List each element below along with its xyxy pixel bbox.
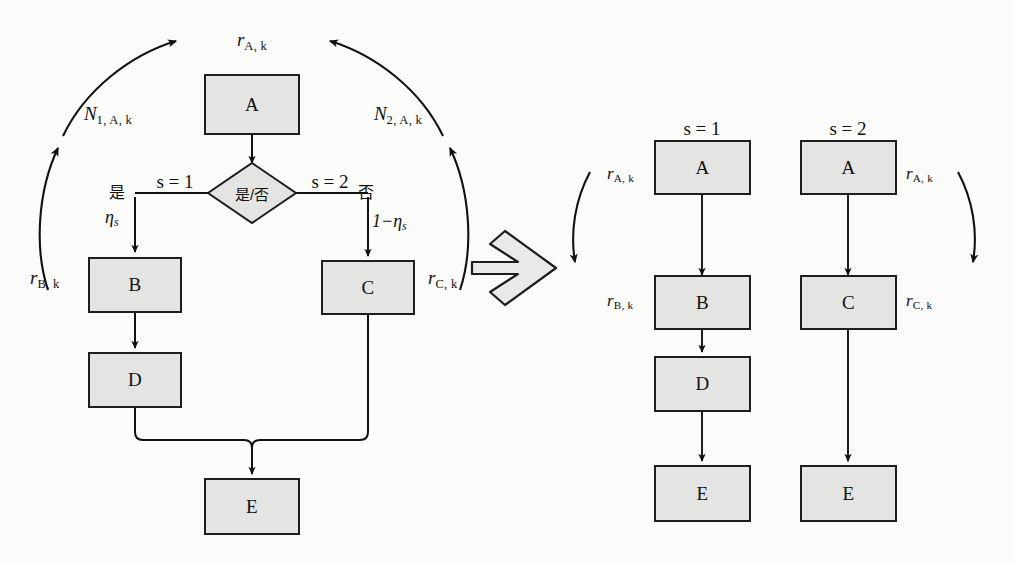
- label-r-a-k-top: rA, k: [237, 30, 267, 52]
- diagram-canvas: A 是/否 B C D E rA, k N1, A, k N2, A, k s …: [0, 0, 1013, 563]
- node-d-left-label: D: [128, 369, 142, 391]
- edge-decision-left: [135, 193, 208, 252]
- label-s-equals-1-left: s = 1: [156, 172, 193, 191]
- edge-c-to-e: [260, 315, 368, 440]
- column-header-s1-text: s = 1: [683, 118, 720, 139]
- node-c-s2[interactable]: C: [800, 275, 897, 330]
- node-c-s2-label: C: [842, 292, 855, 314]
- column-header-s2: s = 2: [829, 119, 866, 138]
- label-no-branch: 否: [358, 185, 374, 201]
- label-rc-sub: C, k: [435, 277, 457, 291]
- decision-diamond: [208, 163, 296, 223]
- label-s2-text: s = 2: [311, 171, 348, 192]
- label-rb-sub: B, k: [37, 277, 59, 291]
- node-a-s1[interactable]: A: [654, 140, 751, 195]
- node-c-left-label: C: [361, 277, 374, 299]
- label-n1-base: N: [84, 103, 97, 124]
- label-r-c-k-left: rC, k: [428, 268, 458, 290]
- label-one-minus-eta-s: 1−ηs: [372, 212, 407, 233]
- label-r-c-k-s2: rC, k: [906, 292, 933, 311]
- label-n1-a-k: N1, A, k: [84, 104, 132, 126]
- node-c-left[interactable]: C: [321, 260, 415, 315]
- edge-merge-to-e: [244, 440, 260, 474]
- label-n2-base: N: [374, 103, 387, 124]
- label-yes-branch: 是: [109, 185, 125, 201]
- label-r-a-k-s1: rA, k: [607, 165, 634, 184]
- node-e-left-label: E: [246, 496, 258, 518]
- label-no-text: 否: [358, 183, 374, 202]
- node-e-s1[interactable]: E: [654, 465, 751, 522]
- edge-d-to-e: [135, 408, 244, 440]
- label-r-b-k-s1: rB, k: [607, 292, 634, 311]
- node-a-left-label: A: [245, 94, 259, 116]
- label-one-minus-eta-sub: s: [402, 219, 407, 233]
- column-header-s1: s = 1: [683, 119, 720, 138]
- column-header-s2-text: s = 2: [829, 118, 866, 139]
- right-panel-curve-s2: [958, 172, 975, 262]
- label-one-minus-eta-base: 1−η: [372, 211, 402, 231]
- label-ra-s1-base: r: [607, 164, 614, 183]
- node-b-s1-label: B: [696, 292, 709, 314]
- label-n1-sub: 1, A, k: [97, 113, 133, 127]
- label-eta-s: ηs: [105, 208, 119, 229]
- node-e-s2-label: E: [842, 483, 854, 505]
- label-rb-s1-base: r: [607, 291, 614, 310]
- node-e-s1-label: E: [696, 483, 708, 505]
- node-a-left[interactable]: A: [204, 74, 300, 135]
- label-rb-s1-sub: B, k: [614, 299, 634, 311]
- label-eta-sub: s: [114, 215, 119, 229]
- node-a-s2-label: A: [841, 157, 855, 179]
- label-r-a-k-s2: rA, k: [906, 165, 933, 184]
- node-e-left[interactable]: E: [204, 478, 300, 535]
- node-b-left-label: B: [128, 274, 141, 296]
- node-d-s1-label: D: [695, 373, 709, 395]
- node-d-left[interactable]: D: [88, 352, 182, 408]
- label-ra-s2-sub: A, k: [913, 172, 934, 184]
- node-b-left[interactable]: B: [88, 257, 182, 313]
- label-s-equals-2-left: s = 2: [311, 172, 348, 191]
- node-b-s1[interactable]: B: [654, 275, 751, 330]
- node-e-s2[interactable]: E: [800, 465, 897, 522]
- block-arrow-right-icon: [472, 231, 556, 305]
- label-r-a-k-top-sub: A, k: [244, 39, 267, 53]
- right-panel-curve-s1: [573, 172, 590, 262]
- label-n2-a-k-real: N2, A, k: [374, 104, 422, 126]
- label-yes-text: 是: [109, 183, 125, 202]
- label-ra-s1-sub: A, k: [614, 172, 635, 184]
- node-a-s2[interactable]: A: [800, 140, 897, 195]
- label-rc-s2-sub: C, k: [913, 299, 933, 311]
- node-a-s1-label: A: [695, 157, 709, 179]
- label-r-b-k-left: rB, k: [30, 268, 60, 290]
- label-ra-s2-base: r: [906, 164, 913, 183]
- label-s1-text: s = 1: [156, 171, 193, 192]
- node-d-s1[interactable]: D: [654, 356, 751, 412]
- label-eta-base: η: [105, 207, 114, 227]
- label-rc-s2-base: r: [906, 291, 913, 310]
- label-n2-sub: 2, A, k: [387, 113, 423, 127]
- edge-decision-right: [296, 193, 368, 256]
